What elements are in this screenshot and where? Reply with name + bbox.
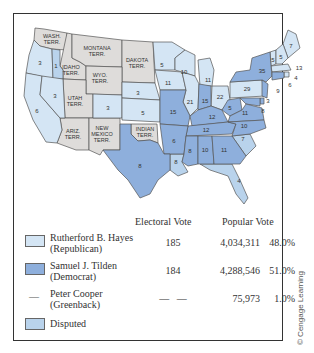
connecticut: [272, 72, 284, 80]
tilden-swatch: [25, 263, 45, 275]
vote-tennessee: 12: [203, 127, 210, 133]
cooper-percent: 1.0%: [263, 293, 295, 304]
cooper-name: Peter Cooper (Greenback): [50, 288, 103, 310]
us-election-map: 3 1 6 3 3 3 5 5 11 10 11 21 15 22 29 35 …: [0, 0, 314, 215]
vote-new-york: 35: [259, 68, 266, 74]
vote-michigan: 11: [205, 77, 212, 83]
massachusetts: [271, 64, 291, 72]
hayes-electoral: 185: [153, 237, 193, 248]
svg-text:TERR.: TERR.: [129, 63, 146, 69]
vote-pennsylvania: 29: [244, 86, 251, 92]
vote-indiana: 15: [202, 98, 209, 104]
vote-missouri: 15: [170, 109, 177, 115]
popular-vote-header: Popular Vote: [222, 216, 274, 227]
svg-text:TERR.: TERR.: [65, 134, 82, 140]
tilden-electoral: 184: [153, 265, 193, 276]
svg-text:TERR.: TERR.: [92, 78, 109, 84]
disputed-swatch: [25, 318, 45, 330]
vote-kentucky: 12: [209, 114, 216, 120]
hayes-name: Rutherford B. Hayes (Republican): [50, 232, 133, 254]
vote-ohio: 22: [217, 94, 224, 100]
new-york: [230, 52, 272, 82]
vote-new-jersey: 9: [276, 88, 280, 94]
vote-alabama: 10: [202, 147, 209, 153]
florida: [200, 164, 248, 204]
cooper-electoral: — —: [150, 293, 196, 304]
svg-text:TERR.: TERR.: [137, 132, 154, 138]
nebraska: [122, 82, 160, 100]
hayes-percent: 48.0%: [263, 237, 295, 248]
electoral-vote-header: Electoral Vote: [135, 216, 192, 227]
tilden-name: Samuel J. Tilden (Democrat): [50, 260, 117, 282]
vote-virginia: 11: [242, 110, 249, 116]
vote-iowa: 11: [165, 80, 172, 86]
tilden-percent: 51.0%: [263, 265, 295, 276]
svg-text:TERR.: TERR.: [67, 101, 84, 107]
disputed-label: Disputed: [50, 318, 86, 329]
vote-maryland: 8: [261, 108, 265, 114]
svg-text:TERR.: TERR.: [89, 51, 106, 57]
indiana: [198, 84, 211, 110]
vote-georgia: 11: [221, 147, 228, 153]
hayes-popular: 4,034,311: [208, 237, 260, 248]
copyright-credit: © Cengage Learning: [296, 271, 305, 345]
rhode-island: [284, 72, 289, 77]
vote-delaware: 3: [266, 98, 270, 104]
vote-massachusetts: 13: [296, 65, 303, 71]
svg-text:TERR.: TERR.: [94, 137, 111, 143]
vote-illinois: 21: [187, 99, 194, 105]
svg-text:TERR.: TERR.: [63, 70, 80, 76]
vote-ri: 4: [294, 75, 298, 81]
delaware: [260, 98, 264, 104]
vote-wisconsin: 10: [181, 69, 188, 75]
cooper-dash: —: [29, 291, 39, 302]
new-jersey: [262, 80, 268, 98]
hayes-swatch: [25, 235, 45, 247]
vote-north-carolina: 10: [241, 123, 248, 129]
svg-text:TERR.: TERR.: [44, 39, 61, 45]
tilden-popular: 4,288,546: [208, 265, 260, 276]
vote-connecticut: 6: [288, 82, 292, 88]
cooper-popular: 75,973: [208, 293, 260, 304]
